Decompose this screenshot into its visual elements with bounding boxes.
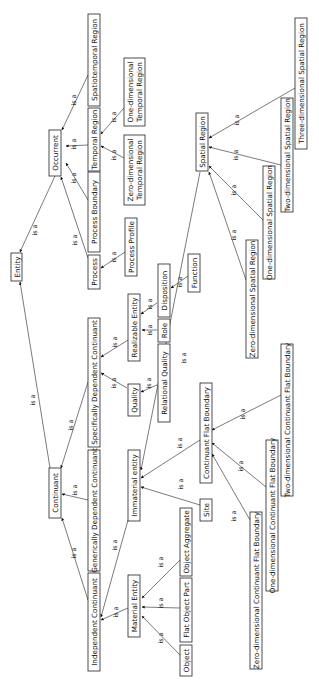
svg-text:Process Boundary: Process Boundary bbox=[90, 179, 99, 244]
svg-text:Entity: Entity bbox=[13, 256, 22, 278]
edge-zerodimtemporal-temporalregion: is a bbox=[101, 146, 124, 161]
edge-label: is a bbox=[70, 94, 78, 105]
edge-label: is a bbox=[110, 111, 118, 122]
svg-text:Zero-dimensional Spatial Regio: Zero-dimensional Spatial Region bbox=[248, 241, 257, 358]
node-function: Function bbox=[188, 254, 200, 292]
svg-text:Spatiotemporal Region: Spatiotemporal Region bbox=[90, 19, 99, 101]
edge-label: is a bbox=[146, 298, 154, 309]
svg-text:Specifically Dependent Continu: Specifically Dependent Continuant bbox=[90, 320, 99, 445]
edge-label: is a bbox=[177, 478, 185, 489]
edge-label: is a bbox=[31, 224, 39, 235]
svg-text:Quality: Quality bbox=[130, 386, 139, 412]
node-object-aggregate: Object Aggregate bbox=[180, 508, 192, 576]
svg-text:Continuant: Continuant bbox=[51, 473, 60, 513]
edge-processprofile-process: is a bbox=[101, 251, 125, 268]
node-temporal-region: Temporal Region bbox=[88, 108, 100, 171]
edge-label: is a bbox=[110, 251, 118, 262]
edge-label: is a bbox=[29, 394, 37, 405]
svg-text:Temporal Region: Temporal Region bbox=[135, 62, 144, 123]
svg-text:Disposition: Disposition bbox=[160, 271, 169, 311]
node-immaterial-entity: Immaterial entity bbox=[128, 450, 140, 521]
edge-flatobjectpart-material: is a bbox=[142, 597, 180, 608]
edge-twodimcfb-cfb: is a bbox=[212, 395, 281, 430]
svg-text:Process: Process bbox=[90, 258, 99, 286]
node-one-dim-temporal-region: One-dimensional Temporal Region bbox=[124, 58, 145, 126]
node-zero-dim-temporal-region: Zero-dimensional Temporal Region bbox=[124, 135, 145, 205]
edge-generically-continuant: is a bbox=[62, 484, 88, 500]
edge-label: is a bbox=[237, 460, 245, 471]
svg-text:Immaterial entity: Immaterial entity bbox=[130, 454, 139, 517]
node-one-dim-cfb: One-dimensional Continuant Flat Boundary bbox=[266, 437, 278, 593]
edge-label: is a bbox=[233, 114, 241, 125]
node-object: Object bbox=[180, 645, 192, 676]
edge-label: is a bbox=[157, 556, 165, 567]
node-independent-continuant: Independent Continuant bbox=[88, 573, 100, 671]
edge-quality-specifically: is a bbox=[101, 373, 127, 389]
edge-label: is a bbox=[157, 597, 165, 608]
edge-label: is a bbox=[239, 408, 247, 419]
edge-onedimcfb-cfb: is a bbox=[212, 443, 266, 487]
node-site: Site bbox=[200, 499, 212, 521]
edge-label: is a bbox=[70, 138, 78, 149]
node-entity: Entity bbox=[11, 253, 22, 281]
edge-label: is a bbox=[71, 484, 79, 495]
node-one-dim-spatial-region: One-dimensional Spatial Region bbox=[263, 165, 275, 280]
edge-label: is a bbox=[70, 547, 78, 558]
node-continuant-flat-boundary: Continuant Flat Boundary bbox=[200, 383, 212, 483]
svg-text:One-dimensional: One-dimensional bbox=[126, 62, 135, 123]
svg-text:Process Profile: Process Profile bbox=[127, 220, 136, 272]
node-generically-dependent-continuant: Generically Dependent Continuant bbox=[88, 448, 100, 573]
svg-text:Occurrent: Occurrent bbox=[51, 135, 60, 171]
edge-objectaggregate-material: is a bbox=[142, 556, 180, 598]
node-occurrent: Occurrent bbox=[49, 130, 61, 176]
edge-label: is a bbox=[230, 184, 238, 195]
edge-label: is a bbox=[157, 632, 165, 643]
edge-relationalquality-quality: is a bbox=[141, 377, 157, 392]
edge-label: is a bbox=[111, 539, 119, 550]
edge-onedimspatial-spatial: is a bbox=[209, 166, 263, 220]
svg-text:Flat Object Part: Flat Object Part bbox=[182, 582, 191, 638]
edge-label: is a bbox=[176, 437, 184, 448]
edge-material-independent: is a bbox=[101, 606, 128, 620]
node-zero-dim-cfb: Zero-dimensional Continuant Flat Boundar… bbox=[250, 511, 262, 669]
edge-disposition-realizable: is a bbox=[141, 298, 157, 314]
node-quality: Quality bbox=[128, 384, 140, 416]
node-process-profile: Process Profile bbox=[125, 218, 137, 276]
svg-text:Temporal Region: Temporal Region bbox=[90, 110, 99, 171]
edge-spatiotemporal-occurrent: is a bbox=[62, 75, 88, 130]
svg-text:Zero-dimensional Continuant Fl: Zero-dimensional Continuant Flat Boundar… bbox=[252, 511, 261, 669]
edge-zerodimspatial-spatial: is a bbox=[209, 172, 246, 280]
edge-label: is a bbox=[110, 377, 118, 388]
svg-text:One-dimensional Spatial Region: One-dimensional Spatial Region bbox=[265, 165, 274, 280]
edge-label: is a bbox=[71, 234, 79, 245]
node-relational-quality: Relational Quality bbox=[158, 344, 170, 422]
node-realizable-entity: Realizable Entity bbox=[128, 294, 140, 361]
node-three-dim-spatial-region: Three-dimensional Spatial Region bbox=[295, 18, 307, 149]
node-specifically-dependent-continuant: Specifically Dependent Continuant bbox=[88, 318, 100, 447]
svg-text:Material Entity: Material Entity bbox=[130, 579, 139, 632]
node-spatiotemporal-region: Spatiotemporal Region bbox=[88, 14, 100, 106]
edge-label: is a bbox=[230, 510, 238, 521]
edge-cfb-immaterial: is a bbox=[141, 437, 200, 478]
svg-text:Site: Site bbox=[202, 503, 211, 517]
edge-realizable-specifically: is a bbox=[101, 336, 128, 357]
edge-object-material: is a bbox=[142, 616, 180, 655]
svg-text:Two-dimensional Continuant Fla: Two-dimensional Continuant Flat Boundary bbox=[283, 342, 292, 498]
edge-onedimtemporal-temporalregion: is a bbox=[101, 108, 124, 134]
edge-label: is a bbox=[180, 352, 188, 363]
node-process: Process bbox=[88, 255, 100, 289]
edge-label: is a bbox=[111, 336, 119, 347]
edge-independent-continuant: is a bbox=[62, 518, 88, 600]
edge-site-immaterial: is a bbox=[141, 478, 200, 505]
edge-twodimspatial-spatial: is a bbox=[209, 147, 281, 165]
nodes: Entity Occurrent Continuant Process Proc… bbox=[11, 14, 307, 676]
edge-label: is a bbox=[110, 149, 118, 160]
edge-label: is a bbox=[112, 606, 120, 617]
edge-function-disposition: is a bbox=[171, 276, 188, 288]
edge-label: is a bbox=[146, 324, 154, 335]
svg-text:Temporal Region: Temporal Region bbox=[135, 140, 144, 201]
edge-label: is a bbox=[145, 377, 153, 388]
svg-text:One-dimensional Continuant Fla: One-dimensional Continuant Flat Boundary bbox=[268, 437, 277, 593]
edge-immaterial-independent: is a bbox=[101, 520, 128, 617]
edge-specifically-continuant: is a bbox=[61, 382, 88, 468]
